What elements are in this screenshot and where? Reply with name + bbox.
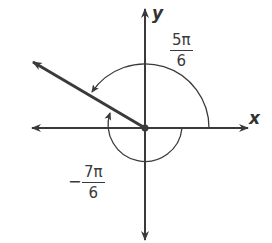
- y-axis-label: y: [152, 3, 163, 23]
- unit-angle-diagram: [0, 0, 272, 243]
- x-axis-label: x: [249, 108, 260, 128]
- negative-angle-label: 7π 6: [82, 165, 105, 201]
- terminal-ray: [33, 62, 145, 128]
- negative-angle-numerator: 7π: [82, 165, 105, 183]
- positive-angle-numerator: 5π: [170, 33, 193, 51]
- negative-angle-denominator: 6: [82, 183, 105, 201]
- origin-point: [142, 125, 149, 132]
- negative-angle-sign: −: [68, 172, 81, 191]
- positive-angle-label: 5π 6: [170, 33, 193, 69]
- positive-angle-denominator: 6: [170, 51, 193, 69]
- positive-angle-arc: [92, 64, 209, 128]
